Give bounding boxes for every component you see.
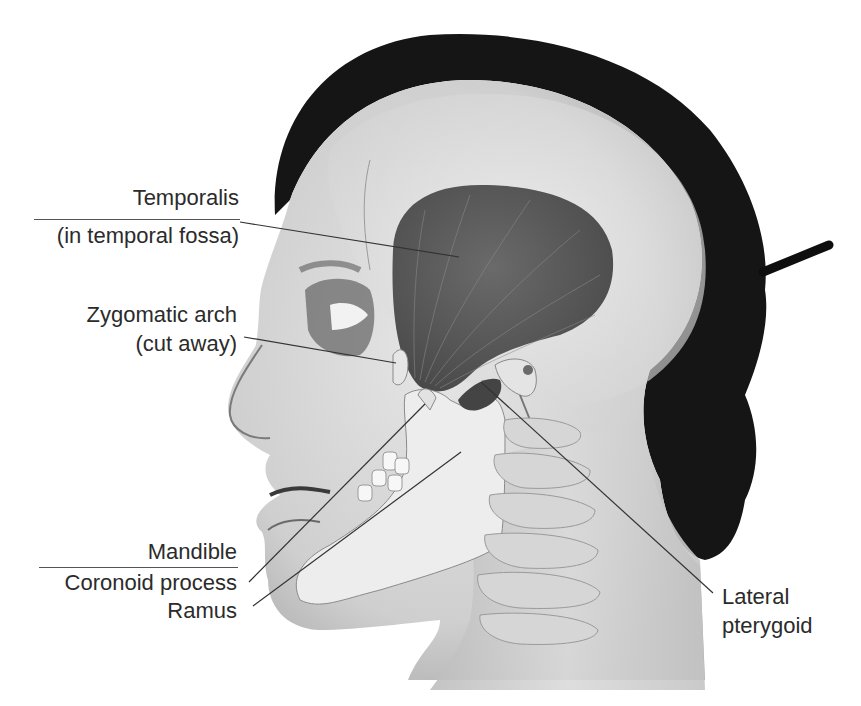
label-coronoid-process: Coronoid process [65, 570, 237, 596]
label-zygomatic-arch: Zygomatic arch [87, 302, 237, 328]
label-mandible: Mandible [148, 539, 237, 565]
label-temporal-fossa: (in temporal fossa) [57, 223, 239, 249]
label-ramus: Ramus [167, 598, 237, 624]
label-pterygoid: pterygoid [722, 613, 813, 639]
label-temporalis: Temporalis [133, 185, 239, 211]
anatomy-figure: Temporalis (in temporal fossa) Zygomatic… [0, 0, 861, 706]
label-divider-temporalis [34, 219, 240, 220]
label-cut-away: (cut away) [136, 331, 237, 357]
label-divider-mandible [39, 567, 238, 568]
label-lateral: Lateral [722, 584, 789, 610]
